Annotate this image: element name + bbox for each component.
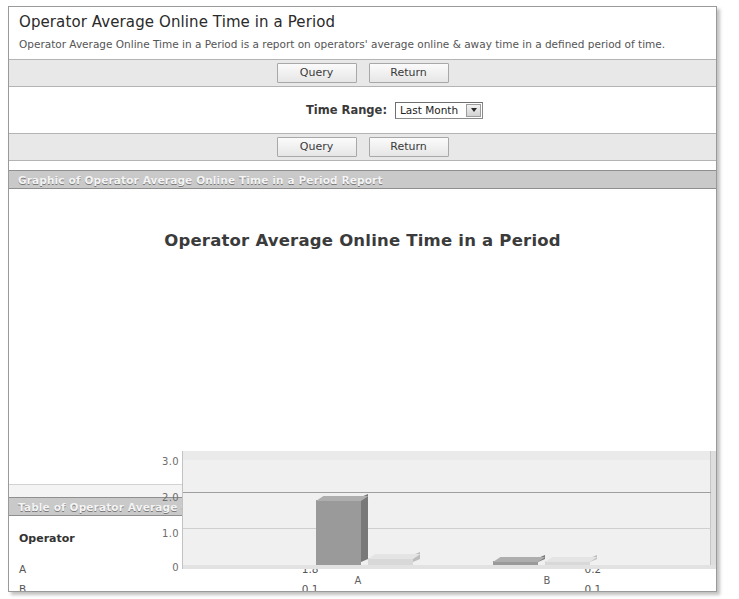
query-button-bottom[interactable]: Query	[277, 137, 357, 157]
return-button-bottom[interactable]: Return	[369, 137, 449, 157]
spacer-2	[9, 485, 716, 497]
cell-online: 1.8	[292, 559, 575, 579]
cell-online: 0.1	[292, 579, 575, 592]
report-description: Operator Average Online Time in a Period…	[19, 38, 706, 51]
section-header-table: Table of Operator Average Online Time in…	[9, 497, 716, 516]
table-panel: Operator Average Online Time(h) Average …	[9, 516, 716, 592]
section-header-graphic: Graphic of Operator Average Online Time …	[9, 170, 716, 189]
report-header: Operator Average Online Time in a Period…	[9, 7, 716, 59]
return-button-top[interactable]: Return	[369, 63, 449, 83]
time-range-label: Time Range:	[306, 103, 387, 117]
column-header-operator: Operator	[9, 516, 292, 559]
plot-top-wall	[183, 451, 717, 460]
cell-away: 0.1	[575, 579, 716, 592]
toolbar-top: Query Return	[9, 59, 716, 87]
cell-operator: B	[9, 579, 292, 592]
cell-away: 0.2	[575, 559, 716, 579]
cell-operator: A	[9, 559, 292, 579]
table-row: A 1.8 0.2	[9, 559, 716, 579]
chart-panel: Operator Average Online Time in a Period…	[9, 189, 716, 485]
section-header-graphic-label: Graphic of Operator Average Online Time …	[18, 174, 383, 186]
report-table: Operator Average Online Time(h) Average …	[9, 516, 716, 592]
table-header-row: Operator Average Online Time(h) Average …	[9, 516, 716, 559]
table-row: B 0.1 0.1	[9, 579, 716, 592]
section-header-table-label: Table of Operator Average Online Time in…	[18, 501, 368, 513]
spacer	[9, 161, 716, 170]
column-header-away: Average Away Time(h)	[575, 516, 716, 559]
page-title: Operator Average Online Time in a Period	[19, 13, 706, 31]
chart-title: Operator Average Online Time in a Period	[9, 189, 716, 250]
time-range-selected-value: Last Month	[400, 104, 458, 116]
y-tick-3: 3.0	[149, 456, 179, 467]
report-page: Operator Average Online Time in a Period…	[8, 6, 717, 592]
time-range-select[interactable]: Last Month	[395, 102, 483, 119]
chevron-down-icon[interactable]	[466, 104, 481, 117]
column-header-online: Average Online Time(h)	[292, 516, 575, 559]
filter-row: Time Range: Last Month	[9, 87, 716, 133]
query-button-top[interactable]: Query	[277, 63, 357, 83]
toolbar-bottom: Query Return	[9, 133, 716, 161]
